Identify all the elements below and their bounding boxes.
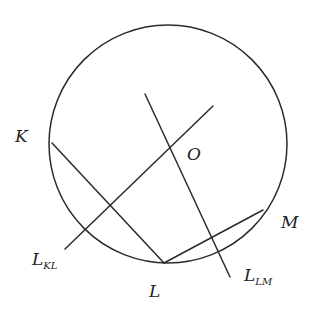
- line-label-l-kl: LKL: [31, 249, 58, 271]
- line-label-l-lm-sub: LM: [254, 276, 273, 287]
- chord-lm: [164, 210, 263, 263]
- line-label-l-lm: LLM: [243, 265, 273, 287]
- line-label-l-kl-sub: KL: [42, 260, 57, 271]
- point-label-o: O: [187, 144, 201, 164]
- bisector-line-kl: [65, 106, 213, 249]
- point-label-l: L: [148, 281, 160, 301]
- point-label-m: M: [280, 212, 299, 232]
- point-label-k: K: [14, 126, 29, 146]
- geometry-figure: K O M L LKL LLM: [0, 0, 320, 314]
- line-label-l-kl-main: L: [31, 249, 43, 269]
- line-label-l-lm-main: L: [243, 265, 255, 285]
- bisector-line-lm: [145, 94, 230, 277]
- diagram-svg: K O M L LKL LLM: [0, 0, 320, 314]
